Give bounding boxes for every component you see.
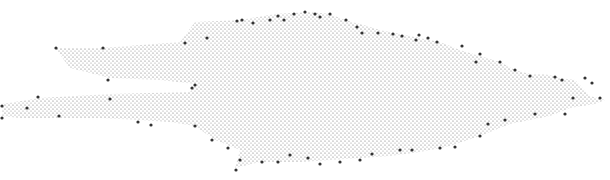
node-dot <box>276 160 279 163</box>
node-dot <box>328 12 331 15</box>
node-dot <box>598 96 601 99</box>
node-dot <box>533 112 536 115</box>
node-dot <box>101 46 104 49</box>
node-dot <box>288 153 291 156</box>
node-dot <box>226 146 229 149</box>
node-dot <box>344 18 347 21</box>
node-dot <box>453 145 456 148</box>
node-dot <box>318 162 321 165</box>
node-dot <box>136 120 139 123</box>
node-dot <box>0 104 3 107</box>
node-dot <box>57 114 60 117</box>
node-dot <box>474 60 477 63</box>
node-dot <box>240 18 243 21</box>
node-dot <box>513 68 516 71</box>
stipple-figure <box>0 0 610 180</box>
node-dot <box>149 123 152 126</box>
node-dot <box>183 41 186 44</box>
node-dot <box>583 76 586 79</box>
node-dot <box>410 148 413 151</box>
node-dot <box>54 46 57 49</box>
node-dot <box>435 40 438 43</box>
node-dot <box>306 156 309 159</box>
node-dot <box>260 160 263 163</box>
node-dot <box>426 36 429 39</box>
node-dot <box>318 15 321 18</box>
node-dot <box>358 158 361 161</box>
node-dot <box>498 60 501 63</box>
node-dot <box>36 95 39 98</box>
node-dot <box>398 148 401 151</box>
node-dot <box>503 118 506 121</box>
node-dot <box>108 97 111 100</box>
node-dot <box>563 112 566 115</box>
node-dot <box>251 21 254 24</box>
node-dot <box>376 31 379 34</box>
node-dot <box>190 86 193 89</box>
node-dot <box>303 10 306 13</box>
node-dot <box>235 19 238 22</box>
node-dot <box>205 36 208 39</box>
node-dot <box>438 146 441 149</box>
node-dot <box>0 116 3 119</box>
node-dot <box>360 31 363 34</box>
node-dot <box>528 74 531 77</box>
node-dot <box>193 124 196 127</box>
node-dot <box>560 78 563 81</box>
node-dot <box>276 14 279 17</box>
node-dot <box>238 158 241 161</box>
node-dot <box>478 134 481 137</box>
node-dot <box>338 160 341 163</box>
node-dot <box>193 83 196 86</box>
node-dot <box>571 96 574 99</box>
node-dot <box>355 25 358 28</box>
node-dot <box>210 138 213 141</box>
node-dot <box>25 106 28 109</box>
node-dot <box>106 78 109 81</box>
node-dot <box>417 33 420 36</box>
node-dot <box>486 122 489 125</box>
node-dot <box>292 12 295 15</box>
node-dot <box>460 44 463 47</box>
node-dot <box>282 18 285 21</box>
node-dot <box>313 12 316 15</box>
node-dot <box>370 152 373 155</box>
node-dot <box>234 168 237 171</box>
node-dot <box>400 34 403 37</box>
node-dot <box>268 18 271 21</box>
node-dot <box>478 52 481 55</box>
node-dot <box>553 75 556 78</box>
node-dot <box>590 81 593 84</box>
node-dot <box>391 32 394 35</box>
node-dot <box>414 38 417 41</box>
